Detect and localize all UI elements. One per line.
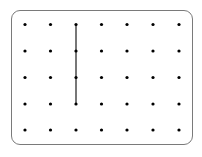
- grid-dot: [49, 23, 52, 26]
- grid-dot: [74, 76, 77, 79]
- grid-dot: [49, 102, 52, 105]
- grid-dot: [23, 76, 26, 79]
- grid-dot: [151, 23, 154, 26]
- grid-dot: [23, 128, 26, 131]
- grid-dot: [177, 102, 180, 105]
- grid-dot: [23, 49, 26, 52]
- grid-dot: [177, 128, 180, 131]
- grid-dot: [125, 23, 128, 26]
- grid-dot: [100, 128, 103, 131]
- dot-grid: [0, 0, 202, 157]
- grid-dot: [74, 102, 77, 105]
- grid-dot: [49, 128, 52, 131]
- grid-dot: [74, 128, 77, 131]
- grid-dot: [23, 23, 26, 26]
- grid-dot: [100, 76, 103, 79]
- grid-dot: [74, 23, 77, 26]
- grid-dot: [100, 49, 103, 52]
- grid-dot: [151, 76, 154, 79]
- grid-dot: [177, 23, 180, 26]
- grid-dot: [125, 76, 128, 79]
- grid-dot: [125, 49, 128, 52]
- grid-dot: [177, 49, 180, 52]
- grid-dot: [100, 23, 103, 26]
- grid-dot: [23, 102, 26, 105]
- grid-dot: [100, 102, 103, 105]
- grid-dot: [74, 49, 77, 52]
- grid-dot: [125, 102, 128, 105]
- grid-dot: [125, 128, 128, 131]
- grid-dot: [177, 76, 180, 79]
- grid-dot: [151, 49, 154, 52]
- grid-dot: [49, 49, 52, 52]
- grid-dot: [151, 102, 154, 105]
- grid-dot: [49, 76, 52, 79]
- grid-dot: [151, 128, 154, 131]
